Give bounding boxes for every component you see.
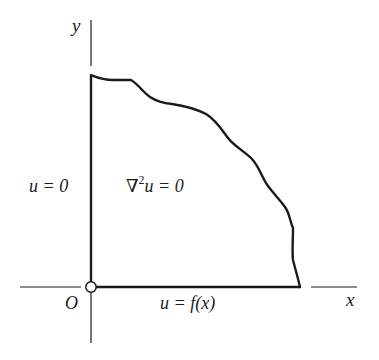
diagram-canvas: y x O u = 0 ∇2u = 0 u = f(x) — [0, 0, 379, 360]
y-axis-label: y — [70, 15, 81, 36]
nabla-symbol: ∇ — [126, 176, 139, 196]
left-boundary-text: u = 0 — [29, 176, 68, 196]
curved-boundary — [91, 75, 300, 287]
origin-label: O — [65, 293, 78, 313]
laplace-equation-label: ∇2u = 0 — [126, 173, 184, 196]
laplace-rest: u = 0 — [145, 176, 184, 196]
origin-marker — [86, 282, 96, 292]
x-axis-label: x — [345, 289, 355, 310]
bottom-boundary-label: u = f(x) — [160, 293, 215, 314]
left-boundary-label: u = 0 — [29, 176, 68, 196]
